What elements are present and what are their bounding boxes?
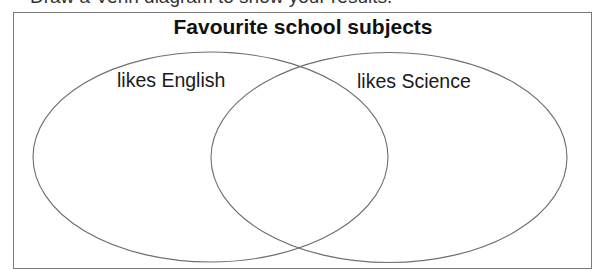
venn-diagram <box>0 0 600 279</box>
set-label-science: likes Science <box>357 70 471 92</box>
set-label-english: likes English <box>117 69 225 91</box>
